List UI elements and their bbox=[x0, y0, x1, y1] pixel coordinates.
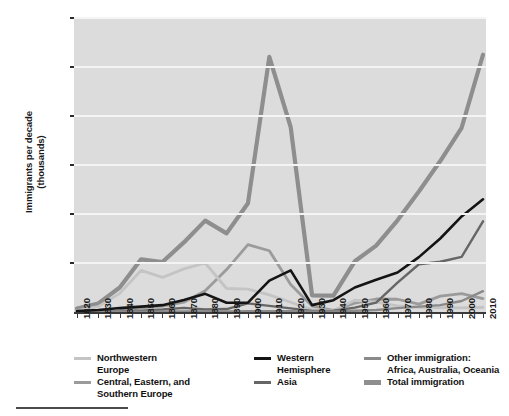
gridline-200 bbox=[74, 262, 486, 264]
x-tick-label-1900: 1900 bbox=[252, 298, 263, 319]
x-tick-mark-1860 bbox=[162, 313, 163, 318]
legend-item-total-immigration[interactable]: Total immigration bbox=[364, 376, 464, 388]
legend-swatch-western-hemisphere bbox=[254, 357, 271, 360]
x-tick-mark-2000 bbox=[462, 313, 463, 318]
x-tick-label-1840: 1840 bbox=[124, 298, 135, 319]
immigration-chart-figure: Immigrants per decade (thousands) 200400… bbox=[0, 0, 509, 416]
x-tick-label-1990: 1990 bbox=[444, 298, 455, 319]
legend-item-western-hemisphere[interactable]: Western Hemisphere bbox=[254, 352, 330, 375]
series-line-total-immigration bbox=[77, 55, 483, 309]
legend-label-northwestern-europe: Northwestern Europe bbox=[97, 352, 157, 375]
x-tick-label-1850: 1850 bbox=[145, 298, 156, 319]
legend-item-northwestern-europe[interactable]: Northwestern Europe bbox=[74, 352, 157, 375]
gridline-1200 bbox=[74, 17, 486, 19]
legend-label-asia: Asia bbox=[277, 376, 297, 388]
x-tick-label-1940: 1940 bbox=[337, 298, 348, 319]
y-axis-title-line2: (thousands) bbox=[35, 42, 47, 282]
y-axis-title-line1: Immigrants per decade bbox=[23, 111, 34, 213]
x-tick-label-1950: 1950 bbox=[359, 298, 370, 319]
legend-label-total-immigration: Total immigration bbox=[387, 376, 464, 388]
legend-label-other-africa-australia-oceania: Other immigration: Africa, Australia, Oc… bbox=[387, 352, 499, 375]
x-tick-mark-1920 bbox=[291, 313, 292, 318]
x-tick-label-1870: 1870 bbox=[188, 298, 199, 319]
legend-swatch-other-africa-australia-oceania bbox=[364, 357, 381, 360]
legend-swatch-northwestern-europe bbox=[74, 357, 91, 360]
x-tick-mark-1960 bbox=[376, 313, 377, 318]
chart-legend: Northwestern EuropeCentral, Eastern, and… bbox=[74, 352, 504, 400]
x-tick-mark-1900 bbox=[248, 313, 249, 318]
gridline-1000 bbox=[74, 66, 486, 68]
x-tick-label-1960: 1960 bbox=[380, 298, 391, 319]
x-tick-mark-1910 bbox=[269, 313, 270, 318]
x-tick-mark-1880 bbox=[205, 313, 206, 318]
y-axis-title: Immigrants per decade (thousands) bbox=[23, 42, 47, 282]
legend-item-other-africa-australia-oceania[interactable]: Other immigration: Africa, Australia, Oc… bbox=[364, 352, 499, 375]
x-tick-mark-1820 bbox=[77, 313, 78, 318]
x-tick-mark-1890 bbox=[227, 313, 228, 318]
gridline-400 bbox=[74, 213, 486, 215]
x-tick-mark-1990 bbox=[440, 313, 441, 318]
legend-item-asia[interactable]: Asia bbox=[254, 376, 297, 388]
gridline-600 bbox=[74, 164, 486, 166]
plot-area bbox=[74, 18, 486, 312]
gridline-800 bbox=[74, 115, 486, 117]
x-tick-label-1860: 1860 bbox=[166, 298, 177, 319]
legend-item-central-eastern-southern-europe[interactable]: Central, Eastern, and Southern Europe bbox=[74, 376, 190, 399]
x-tick-mark-1840 bbox=[120, 313, 121, 318]
x-tick-label-1820: 1820 bbox=[81, 298, 92, 319]
x-tick-label-2000: 2000 bbox=[466, 298, 477, 319]
x-tick-label-1980: 1980 bbox=[423, 298, 434, 319]
legend-swatch-asia bbox=[254, 381, 271, 384]
legend-swatch-total-immigration bbox=[364, 380, 381, 385]
footer-rule bbox=[16, 407, 128, 409]
x-tick-mark-1930 bbox=[312, 313, 313, 318]
x-tick-mark-1970 bbox=[398, 313, 399, 318]
x-tick-label-1930: 1930 bbox=[316, 298, 327, 319]
x-tick-mark-1950 bbox=[355, 313, 356, 318]
legend-label-central-eastern-southern-europe: Central, Eastern, and Southern Europe bbox=[97, 376, 190, 399]
x-tick-mark-1870 bbox=[184, 313, 185, 318]
x-tick-label-1910: 1910 bbox=[273, 298, 284, 319]
x-tick-mark-1830 bbox=[98, 313, 99, 318]
x-tick-label-1830: 1830 bbox=[102, 298, 113, 319]
x-tick-label-1890: 1890 bbox=[231, 298, 242, 319]
x-tick-label-2010: 2010 bbox=[487, 298, 498, 319]
x-tick-label-1970: 1970 bbox=[402, 298, 413, 319]
x-tick-mark-1940 bbox=[333, 313, 334, 318]
legend-label-western-hemisphere: Western Hemisphere bbox=[277, 352, 330, 375]
series-line-western-hemisphere bbox=[77, 199, 483, 311]
x-tick-label-1920: 1920 bbox=[295, 298, 306, 319]
x-tick-label-1880: 1880 bbox=[209, 298, 220, 319]
x-tick-mark-1850 bbox=[141, 313, 142, 318]
x-tick-mark-2010 bbox=[483, 313, 484, 318]
x-tick-mark-1980 bbox=[419, 313, 420, 318]
legend-swatch-central-eastern-southern-europe bbox=[74, 381, 91, 384]
